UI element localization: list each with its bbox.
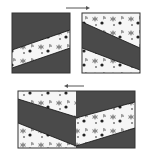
arrow-right-icon xyxy=(66,6,90,10)
texture-diagram xyxy=(0,0,149,153)
arrow-left-icon xyxy=(64,84,84,88)
left-tile xyxy=(12,13,70,73)
right-tile xyxy=(82,13,140,73)
combined-tile xyxy=(18,91,135,148)
